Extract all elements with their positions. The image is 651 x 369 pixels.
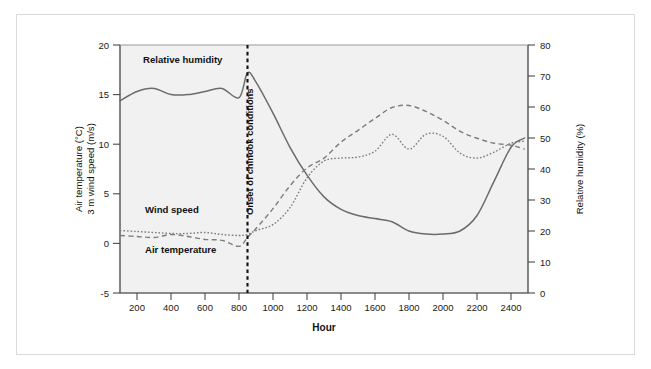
x-ticklabel-2200: 2200 xyxy=(466,302,487,313)
y-left-ticklabel-minus5: -5 xyxy=(101,288,109,299)
plot-background xyxy=(120,45,528,293)
x-ticklabel-2400: 2400 xyxy=(500,302,521,313)
y-right-ticklabel-30: 30 xyxy=(540,195,551,206)
y-right-ticklabel-50: 50 xyxy=(540,133,551,144)
y-right-ticklabel-70: 70 xyxy=(540,71,551,82)
series-label-relative-humidity: Relative humidity xyxy=(143,54,223,65)
y-left-ticklabel-20: 20 xyxy=(98,40,109,51)
onset-label: Onset of chinook conditions xyxy=(244,88,255,215)
y-axis-right: 80 70 60 50 40 30 20 10 0 Relative humid… xyxy=(528,40,585,299)
y-axis-left-title-line2: 3 m wind speed (m/s) xyxy=(85,123,96,215)
x-ticklabel-1000: 1000 xyxy=(262,302,283,313)
x-axis-title: Hour xyxy=(312,322,335,333)
x-ticklabel-1600: 1600 xyxy=(364,302,385,313)
y-left-ticklabel-0: 0 xyxy=(104,238,109,249)
y-right-ticklabel-10: 10 xyxy=(540,257,551,268)
y-left-ticklabel-5: 5 xyxy=(104,188,109,199)
y-axis-left: 20 15 10 5 0 -5 Air temperature (°C) 3 m… xyxy=(73,40,120,299)
x-axis: 200 400 600 800 1000 1200 1400 1600 1800… xyxy=(120,293,528,333)
y-right-ticklabel-60: 60 xyxy=(540,102,551,113)
chart-container: 20 15 10 5 0 -5 Air temperature (°C) 3 m… xyxy=(0,0,651,369)
x-ticklabel-400: 400 xyxy=(163,302,179,313)
y-right-ticklabel-80: 80 xyxy=(540,40,551,51)
y-right-ticklabel-0: 0 xyxy=(540,288,545,299)
x-ticklabel-200: 200 xyxy=(129,302,145,313)
y-axis-left-title-line1: Air temperature (°C) xyxy=(73,126,84,212)
y-left-ticklabel-10: 10 xyxy=(98,139,109,150)
x-ticklabel-800: 800 xyxy=(231,302,247,313)
series-label-air-temperature: Air temperature xyxy=(145,244,216,255)
x-ticklabel-1200: 1200 xyxy=(296,302,317,313)
y-right-ticklabel-40: 40 xyxy=(540,164,551,175)
x-ticklabel-2000: 2000 xyxy=(432,302,453,313)
y-left-ticklabel-15: 15 xyxy=(98,89,109,100)
x-ticklabel-600: 600 xyxy=(197,302,213,313)
chart-svg: 20 15 10 5 0 -5 Air temperature (°C) 3 m… xyxy=(0,0,651,369)
y-right-ticklabel-20: 20 xyxy=(540,226,551,237)
series-label-wind-speed: Wind speed xyxy=(145,204,199,215)
y-axis-right-title: Relative humidity (%) xyxy=(574,124,585,215)
x-ticklabel-1400: 1400 xyxy=(330,302,351,313)
x-ticklabel-1800: 1800 xyxy=(398,302,419,313)
